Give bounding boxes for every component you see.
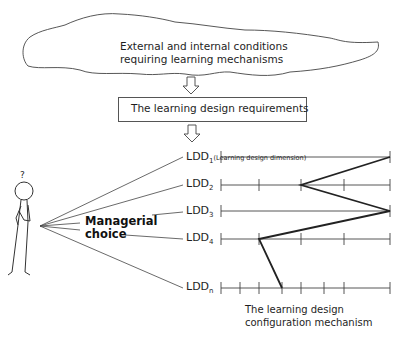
arrow-down-icon bbox=[183, 77, 199, 94]
ldd-label-3: LDD3 bbox=[186, 204, 214, 219]
ldd-sub: 3 bbox=[209, 211, 213, 219]
ldd-text: LDD bbox=[186, 150, 209, 163]
ldd-label-4: LDD4 bbox=[186, 231, 214, 246]
conditions-text: External and internal conditions requiri… bbox=[120, 40, 288, 66]
conditions-line-2: requiring learning mechanisms bbox=[120, 53, 288, 66]
ldd-label-2: LDD2 bbox=[186, 177, 214, 192]
ldd-text: LDD bbox=[186, 177, 209, 190]
arrow-down-icon bbox=[184, 125, 200, 142]
conditions-line-1: External and internal conditions bbox=[120, 40, 288, 53]
configuration-path bbox=[259, 157, 390, 288]
question-mark: ? bbox=[20, 170, 25, 180]
ldd-text: LDD bbox=[186, 204, 209, 217]
ldd-sub: 4 bbox=[209, 238, 213, 246]
managerial-choice-label: Managerial choice bbox=[85, 215, 158, 241]
ldd-label-n: LDDn bbox=[186, 280, 214, 295]
ldd-sub: 2 bbox=[209, 184, 213, 192]
ldd-text: LDD bbox=[186, 231, 209, 244]
ldd-sub: n bbox=[209, 287, 213, 295]
requirements-label: The learning design requirements bbox=[131, 102, 308, 114]
person-figure bbox=[8, 182, 33, 275]
ldd-label-1: LDD1(Learning design dimension) bbox=[186, 150, 306, 165]
ldd-note: (Learning design dimension) bbox=[214, 154, 307, 162]
ldd-text: LDD bbox=[186, 280, 209, 293]
configuration-line-1: The learning design bbox=[245, 304, 372, 317]
managerial-line-2: choice bbox=[85, 228, 158, 241]
configuration-label: The learning design configuration mechan… bbox=[245, 304, 372, 329]
scale-lines bbox=[221, 151, 390, 294]
configuration-line-2: configuration mechanism bbox=[245, 317, 372, 330]
